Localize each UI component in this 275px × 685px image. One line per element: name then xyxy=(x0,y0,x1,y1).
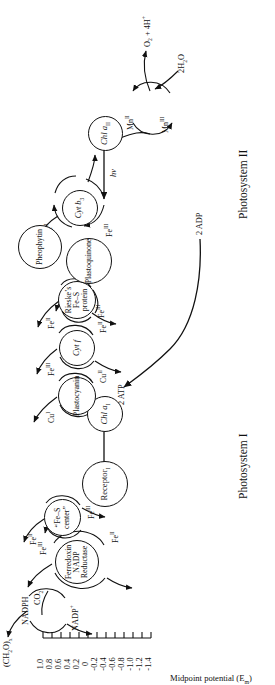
water-end: O xyxy=(177,54,186,60)
section-label-photosystem-2: Photosystem II xyxy=(238,150,250,219)
cu1-sup: I xyxy=(45,412,51,414)
redox-label-fe2-cytf: FeII xyxy=(98,322,108,333)
fe2-text: Fe xyxy=(99,325,108,333)
label-nadp-plus: NADP+ xyxy=(70,605,80,631)
section-label-photosystem-1: Photosystem I xyxy=(238,434,250,500)
node-chl-a-1-subscript: I xyxy=(104,404,110,406)
label-co2: CO2 xyxy=(34,591,44,605)
fe3-text: Fe xyxy=(87,511,96,519)
redox-label-fe2-ferredoxin: FeII xyxy=(110,532,120,543)
label-2-h2o: 2H2O xyxy=(178,54,188,73)
redox-label-fe3-ferredoxin: FeIII xyxy=(38,542,48,555)
cu1-text: Cu xyxy=(47,414,56,423)
mn3-sup: III xyxy=(159,117,165,122)
node-fe-s-center-label: “Fe–S center” xyxy=(54,500,71,535)
redox-label-mn2: MnII xyxy=(125,115,135,130)
node-fe-s-center[interactable]: “Fe–S center” xyxy=(44,499,81,536)
fe2-sup: II xyxy=(45,318,51,322)
carb-mid: O) xyxy=(2,641,11,650)
fe2-text: Fe xyxy=(111,535,120,543)
carb-text: (CH xyxy=(2,653,11,667)
fe2-sup: II xyxy=(109,532,115,536)
label-nadph: NADPH xyxy=(22,596,30,625)
fe2-text: Fe xyxy=(29,537,38,545)
node-plastocyanin[interactable]: Plastocyanin xyxy=(58,377,96,415)
o2-text: O xyxy=(143,41,152,47)
fe2-sup: II xyxy=(27,534,33,538)
node-plastoquinone[interactable]: Plastoquinone xyxy=(66,238,112,284)
label-carbohydrate: (CH2O)x xyxy=(3,638,13,667)
fe3-sup: III xyxy=(95,305,101,310)
redox-label-fe3-fes-center: FeIII xyxy=(86,506,96,519)
fe2-sup: II xyxy=(97,322,103,326)
node-rieske-fe-s-protein[interactable]: Rieske’s Fe–S protein xyxy=(58,281,96,319)
fe3-sup: III xyxy=(85,506,91,511)
fe2-text: Fe xyxy=(47,321,56,329)
node-rieske-label: Rieske’s Fe–S protein xyxy=(65,282,90,318)
node-receptor[interactable]: ReceptorI xyxy=(82,461,128,507)
fe3-sup: III xyxy=(37,542,43,547)
redox-label-fe3-cytf: FeIII xyxy=(46,363,56,376)
node-ferredoxin-nadp-reductase[interactable]: Ferredoxin NADP Reductase xyxy=(55,540,99,584)
fe3-text: Fe xyxy=(97,310,106,318)
node-pheophytin[interactable]: Pheophytin xyxy=(18,225,62,269)
mn2-sup: II xyxy=(124,115,130,119)
node-cyt-b3-subscript: 3 xyxy=(78,198,84,201)
fe3-sup: III xyxy=(45,363,51,368)
nadp-sup: + xyxy=(69,605,75,608)
node-chl-a-2[interactable]: Chl aII xyxy=(88,116,123,151)
node-cyt-b3-label: Cyt b xyxy=(74,201,83,219)
redox-label-fe3-cytb3: FeIII xyxy=(104,224,114,237)
label-photon-ps2: hν xyxy=(110,169,118,177)
mn3-text: Mn xyxy=(161,122,170,133)
cu2-sup: II xyxy=(97,370,103,374)
redox-label-fe2-rieske: FeII xyxy=(46,318,56,329)
fe3-text: Fe xyxy=(39,547,48,555)
axis-title-text: Midpoint potential (E xyxy=(170,673,244,683)
label-oxygen-protons: O2 + 4H+ xyxy=(142,16,154,47)
mn2-text: Mn xyxy=(126,119,135,130)
node-chl-a-2-subscript: II xyxy=(105,122,111,126)
co2-text: CO xyxy=(33,593,42,605)
node-receptor-label: Receptor xyxy=(99,469,109,500)
o2-sub: 2 xyxy=(147,38,153,41)
node-plastocyanin-label: Plastocyanin xyxy=(73,376,81,416)
redox-label-mn3: MnIII xyxy=(160,117,170,133)
node-plastoquinone-label: Plastoquinone xyxy=(85,239,93,284)
o2-end: + 4H xyxy=(143,19,152,38)
carb-sub2: x xyxy=(7,638,13,641)
label-2-atp: 2 ATP xyxy=(118,384,126,405)
water-sub: 2 xyxy=(182,60,188,63)
redox-label-cu2: CuII xyxy=(98,370,108,383)
node-cyt-f-label: Cyt f xyxy=(73,340,82,356)
node-chl-a-1-label: Chl a xyxy=(99,406,109,425)
redox-label-cu1: CuI xyxy=(46,412,56,423)
redox-label-fe3-rieske: FeIII xyxy=(96,305,106,318)
fe3-text: Fe xyxy=(47,368,56,376)
redox-label-fe2-fes-center: FeII xyxy=(28,534,38,545)
axis-title: Midpoint potential (Em) xyxy=(170,673,252,685)
co2-sub: 2 xyxy=(38,591,44,594)
o2-sup: + xyxy=(141,16,147,19)
node-ferredoxin-label: Ferredoxin NADP Reductase xyxy=(65,541,90,583)
nadp-text: NADP xyxy=(71,608,80,631)
node-pheophytin-label: Pheophytin xyxy=(36,229,44,265)
cu2-text: Cu xyxy=(99,374,108,383)
fe3-sup: III xyxy=(103,224,109,229)
axis-title-paren: ) xyxy=(249,673,252,683)
water-text: 2H xyxy=(177,63,186,73)
label-2-adp: 2 ADP xyxy=(196,213,204,235)
axis-tick-label: -1.4 xyxy=(145,651,153,677)
carb-sub1: 2 xyxy=(7,650,13,653)
fe3-text: Fe xyxy=(105,229,114,237)
node-cyt-b3[interactable]: Cyt b3 xyxy=(62,190,98,226)
node-cyt-f[interactable]: Cyt f xyxy=(59,330,95,366)
node-receptor-subscript: I xyxy=(104,468,110,470)
node-chl-a-2-label: Chl a xyxy=(99,126,109,145)
